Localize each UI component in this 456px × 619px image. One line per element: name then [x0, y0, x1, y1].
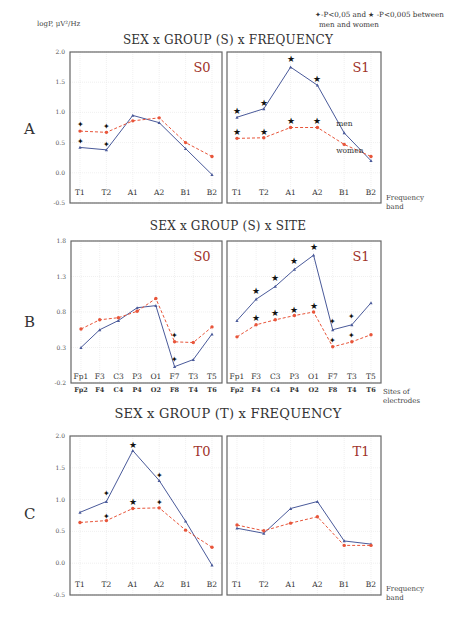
y-tick-label: 1.0	[55, 108, 65, 115]
women-point-marker	[316, 126, 319, 129]
x-tick-label: P3	[132, 372, 142, 381]
x-tick-label-secondary: F4	[95, 386, 105, 394]
series-line-women	[80, 118, 212, 157]
x-tick-label: T1	[232, 188, 242, 197]
panel-label: T0	[194, 444, 211, 459]
x-tick-label: O1	[150, 372, 161, 381]
x-tick-label: A2	[311, 580, 322, 589]
star-marker-icon: ★	[313, 74, 321, 84]
women-point-marker	[254, 323, 257, 326]
cross-marker-icon: ✦	[171, 331, 178, 340]
x-tick-label-secondary: O2	[151, 386, 161, 394]
star-marker-icon: ★	[310, 301, 318, 311]
star-marker-icon: ★	[252, 286, 260, 296]
x-tick-label: T1	[232, 580, 242, 589]
women-point-marker	[184, 528, 187, 531]
women-point-marker	[105, 131, 108, 134]
x-tick-label: B2	[207, 188, 218, 197]
series-line-women	[237, 517, 371, 546]
cross-marker-icon: ✦	[156, 498, 163, 507]
chart-panel-a-s0: 2.01.51.00.50.0-0.5T1T2A1A2B1B2✦✦✦✦S0	[53, 48, 222, 206]
x-tick-label: F7	[328, 372, 338, 381]
y-tick-label: -0.2	[54, 379, 66, 386]
x-tick-label-secondary: T4	[189, 386, 199, 394]
women-point-marker	[331, 345, 334, 348]
y-tick-label: 0.8	[56, 308, 66, 315]
y-tick-label: 1.0	[55, 496, 65, 503]
x-tick-label: F3	[251, 372, 261, 381]
chart-panel-c-t0: 2.01.51.00.50.0-0.5T1T2A1A2B1B2✦★✦✦★✦T0	[53, 432, 222, 598]
cross-marker-icon: ✦	[329, 336, 336, 345]
x-tick-label: A2	[153, 580, 164, 589]
cross-marker-icon: ✦	[348, 312, 355, 321]
y-tick-label: 0.5	[55, 139, 65, 146]
cross-marker-icon: ✦	[156, 471, 163, 480]
women-point-marker	[369, 544, 372, 547]
star-marker-icon: ★	[290, 305, 298, 315]
men-point-marker	[369, 301, 372, 304]
women-point-marker	[210, 546, 213, 549]
star-marker-icon: ★	[310, 242, 318, 252]
women-point-marker	[173, 340, 176, 343]
star-marker-icon: ★	[271, 273, 279, 283]
star-marker-icon: ★	[233, 106, 241, 116]
x-tick-label: B2	[366, 188, 377, 197]
x-tick-label: T2	[102, 188, 112, 197]
series-annotation: men	[336, 119, 353, 128]
star-marker-icon: ★	[252, 313, 260, 323]
chart-panel-b-s1: Fp1F3C3P3O1F7T3T5Fp2F4C4P4O2F8T4T6★★★★★★…	[227, 241, 381, 394]
men-point-marker	[312, 254, 315, 257]
star-marker-icon: ★	[129, 440, 137, 450]
series-line-men	[81, 306, 212, 367]
star-marker-icon: ★	[313, 116, 321, 126]
women-point-marker	[131, 119, 134, 122]
men-point-marker	[289, 66, 292, 69]
women-point-marker	[78, 129, 81, 132]
y-tick-label: -0.5	[53, 591, 65, 598]
x-tick-label-secondary: T6	[207, 386, 217, 394]
panel-label: S1	[352, 60, 369, 75]
y-tick-label: 1.8	[56, 237, 66, 244]
x-tick-label: T2	[102, 580, 112, 589]
women-point-marker	[79, 327, 82, 330]
women-point-marker	[210, 325, 213, 328]
men-point-marker	[210, 332, 213, 335]
women-point-marker	[154, 297, 157, 300]
x-tick-label: A1	[127, 580, 138, 589]
women-point-marker	[274, 318, 277, 321]
x-tick-label: C3	[270, 372, 281, 381]
series-line-men	[80, 115, 212, 174]
x-tick-label: T1	[75, 580, 85, 589]
x-tick-label: T2	[259, 188, 269, 197]
x-tick-label: T2	[259, 580, 269, 589]
x-tick-label: T3	[347, 372, 357, 381]
x-tick-label: B1	[339, 188, 349, 197]
star-marker-icon: ★	[290, 256, 298, 266]
x-tick-label: A1	[284, 188, 295, 197]
y-tick-label: 0.3	[56, 344, 66, 351]
chart-panel-b-s0: 1.81.30.80.3-0.2Fp1F3C3P3O1F7T3T5Fp2F4C4…	[54, 237, 222, 394]
x-tick-label: F7	[170, 372, 180, 381]
cross-marker-icon: ✦	[348, 331, 355, 340]
x-tick-label: C3	[113, 372, 124, 381]
x-tick-label-secondary: F8	[170, 386, 180, 394]
x-tick-label-secondary: Fp2	[74, 386, 88, 394]
women-point-marker	[192, 341, 195, 344]
y-tick-label: 0.5	[55, 527, 65, 534]
women-point-marker	[117, 316, 120, 319]
panel-label: T1	[353, 444, 370, 459]
y-tick-label: -0.5	[53, 199, 65, 206]
x-tick-label: B2	[207, 580, 218, 589]
star-marker-icon: ★	[287, 116, 295, 126]
women-point-marker	[350, 340, 353, 343]
x-tick-label-secondary: P4	[132, 386, 142, 394]
cross-marker-icon: ✦	[103, 122, 110, 131]
x-tick-label: B1	[339, 580, 349, 589]
cross-marker-icon: ✦	[103, 140, 110, 149]
cross-marker-icon: ✦	[329, 317, 336, 326]
y-tick-label: 2.0	[55, 48, 65, 55]
star-marker-icon: ★	[260, 127, 268, 137]
y-tick-label: 2.0	[55, 432, 65, 439]
panel-label: S0	[193, 249, 210, 264]
x-tick-label: Fp1	[74, 372, 89, 381]
